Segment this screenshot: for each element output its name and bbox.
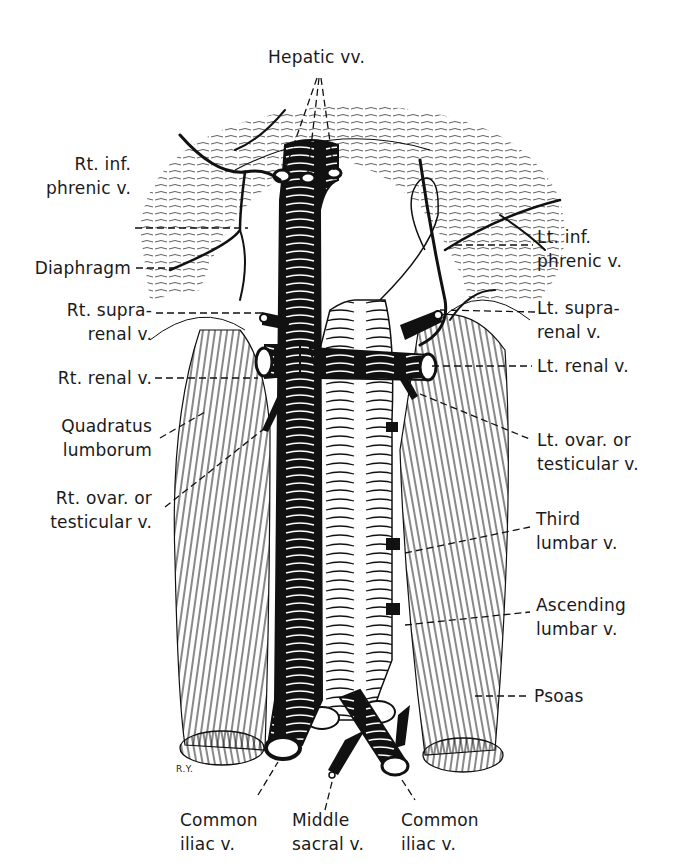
label-line: Quadratus [61,414,152,438]
label-line: Hepatic vv. [268,45,365,69]
label-line: Third [536,507,618,531]
label-lt-renal: Lt. renal v. [537,354,629,378]
label-line: Lt. renal v. [537,354,629,378]
label-lt-inf-phrenic: Lt. inf. phrenic v. [537,225,622,273]
label-diaphragm: Diaphragm [35,256,131,280]
label-line: Rt. renal v. [58,366,152,390]
label-line: testicular v. [537,452,639,476]
label-ascending-lumbar: Ascending lumbar v. [536,593,626,641]
label-psoas: Psoas [534,684,584,708]
label-lt-common-iliac: Common iliac v. [401,808,479,856]
label-line: renal v. [537,320,620,344]
label-line: renal v. [67,322,152,346]
label-line: Diaphragm [35,256,131,280]
label-line: Rt. supra- [67,298,152,322]
label-line: phrenic v. [537,249,622,273]
label-lt-suprarenal: Lt. supra- renal v. [537,296,620,344]
label-line: Ascending [536,593,626,617]
label-line: lumbar v. [536,617,626,641]
label-line: lumbar v. [536,531,618,555]
label-line: iliac v. [401,832,479,856]
artist-signature: R.Y. [176,764,193,774]
label-line: lumborum [61,438,152,462]
label-line: iliac v. [180,832,258,856]
label-lt-ovar-testicular: Lt. ovar. or testicular v. [537,428,639,476]
label-line: Middle [292,808,364,832]
label-line: Lt. supra- [537,296,620,320]
label-rt-ovar-testicular: Rt. ovar. or testicular v. [50,486,152,534]
label-line: Psoas [534,684,584,708]
label-rt-common-iliac: Common iliac v. [180,808,258,856]
label-middle-sacral: Middle sacral v. [292,808,364,856]
label-third-lumbar: Third lumbar v. [536,507,618,555]
label-line: Common [401,808,479,832]
label-line: Rt. inf. [46,152,131,176]
label-line: Rt. ovar. or [50,486,152,510]
label-rt-suprarenal: Rt. supra- renal v. [67,298,152,346]
diaphragm-structure [140,105,565,300]
label-line: Lt. ovar. or [537,428,639,452]
label-hepatic-vv: Hepatic vv. [268,45,365,69]
label-quadratus-lumborum: Quadratus lumborum [61,414,152,462]
label-rt-inf-phrenic: Rt. inf. phrenic v. [46,152,131,200]
right-muscles [150,317,270,765]
label-line: sacral v. [292,832,364,856]
label-rt-renal: Rt. renal v. [58,366,152,390]
label-line: Common [180,808,258,832]
label-line: testicular v. [50,510,152,534]
label-line: phrenic v. [46,176,131,200]
label-line: Lt. inf. [537,225,622,249]
